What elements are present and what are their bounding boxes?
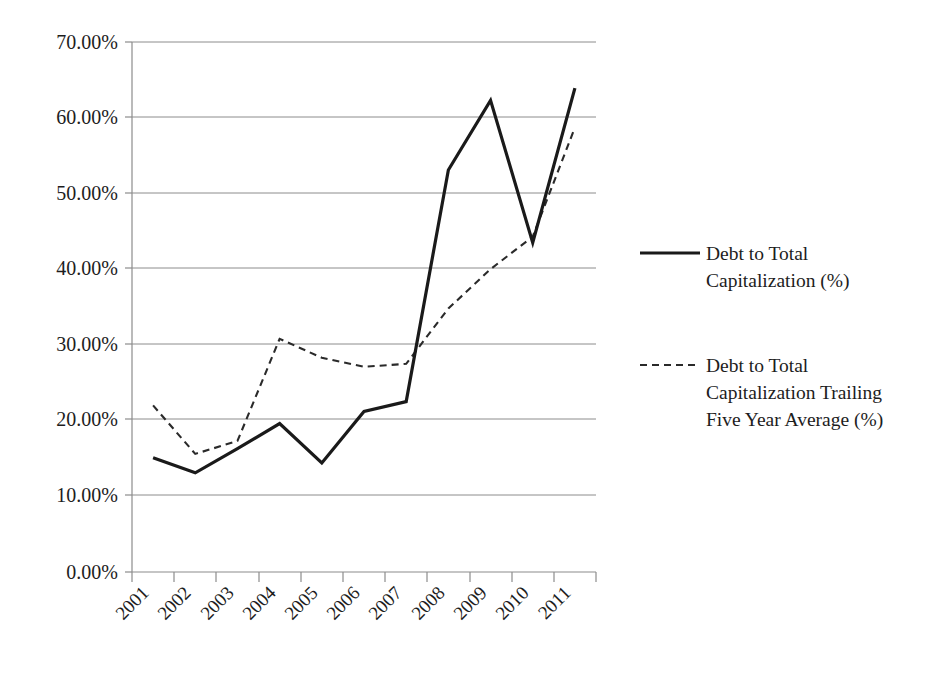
x-tick-label: 2007	[364, 582, 406, 624]
y-tick-label: 70.00%	[56, 31, 118, 53]
gridlines	[132, 42, 596, 495]
legend-label-line: Capitalization (%)	[706, 270, 850, 292]
legend-label-line: Debt to Total	[706, 243, 809, 264]
y-tick-label: 20.00%	[56, 408, 118, 430]
y-tick-labels: 70.00% 60.00% 50.00% 40.00% 30.00% 20.00…	[56, 31, 118, 583]
x-tick-label: 2005	[280, 582, 322, 624]
x-tick-label: 2004	[238, 582, 280, 624]
x-tick-label: 2010	[491, 582, 533, 624]
x-tick-label: 2009	[449, 582, 491, 624]
y-tick-label: 10.00%	[56, 484, 118, 506]
chart-legend: Debt to Total Capitalization (%) Debt to…	[640, 243, 883, 431]
legend-label-line: Debt to Total	[706, 355, 809, 376]
x-tick-label: 2001	[111, 582, 153, 624]
x-tick-labels: 2001 2002 2003 2004 2005 2006 2007 2008 …	[111, 582, 575, 624]
x-tick-label: 2003	[196, 582, 238, 624]
legend-label-line: Capitalization Trailing	[706, 382, 882, 403]
x-tickmarks	[132, 572, 596, 582]
x-tick-label: 2011	[534, 582, 575, 623]
legend-label-line: Five Year Average (%)	[706, 409, 883, 431]
x-tick-label: 2002	[153, 582, 195, 624]
x-tick-label: 2006	[322, 582, 364, 624]
y-tick-label: 40.00%	[56, 257, 118, 279]
y-tick-label: 50.00%	[56, 182, 118, 204]
y-tick-label: 30.00%	[56, 333, 118, 355]
x-tick-label: 2008	[407, 582, 449, 624]
chart-container: 70.00% 60.00% 50.00% 40.00% 30.00% 20.00…	[0, 0, 935, 677]
y-tickmarks	[125, 42, 132, 572]
y-tick-label: 0.00%	[66, 561, 118, 583]
y-tick-label: 60.00%	[56, 106, 118, 128]
series-line-debt-to-total-capitalization	[153, 88, 575, 473]
line-chart: 70.00% 60.00% 50.00% 40.00% 30.00% 20.00…	[0, 0, 935, 677]
